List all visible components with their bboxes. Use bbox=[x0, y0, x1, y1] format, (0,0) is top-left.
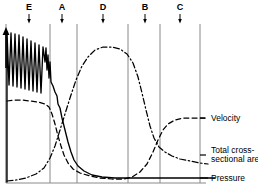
marker-arrowhead-b-icon bbox=[143, 19, 147, 24]
series-velocity bbox=[7, 100, 206, 179]
legend-leader-lines bbox=[200, 118, 208, 178]
marker-arrowhead-c-icon bbox=[178, 19, 182, 24]
region-label-e: E bbox=[22, 2, 36, 12]
legend-label-total-cross-sectional-area: Total cross- sectional area bbox=[211, 146, 258, 165]
legend-label-velocity: Velocity bbox=[211, 114, 240, 124]
marker-arrowhead-a-icon bbox=[60, 19, 64, 24]
region-label-c: C bbox=[173, 2, 187, 12]
data-series bbox=[7, 32, 215, 182]
region-label-a: A bbox=[55, 2, 69, 12]
region-label-b: B bbox=[138, 2, 152, 12]
series-total-cross-sectional-area bbox=[7, 47, 208, 181]
figure-container: EADBC VelocityTotal cross- sectional are… bbox=[0, 0, 258, 188]
region-label-d: D bbox=[96, 2, 110, 12]
legend-label-pressure: Pressure bbox=[211, 174, 245, 184]
marker-arrowhead-e-icon bbox=[27, 19, 31, 24]
marker-arrowhead-d-icon bbox=[101, 19, 105, 24]
region-marker-arrows bbox=[27, 14, 182, 24]
axes bbox=[3, 27, 206, 183]
